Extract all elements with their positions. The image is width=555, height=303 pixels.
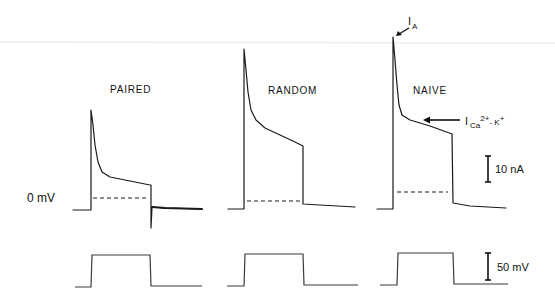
scan-artifact-line xyxy=(0,42,555,43)
voltage-step-paired xyxy=(75,255,202,287)
label-random: RANDOM xyxy=(268,85,317,96)
trace-plot: PAIRED RANDOM NAIVE 0 mV IA xyxy=(0,0,555,303)
label-paired: PAIRED xyxy=(110,84,151,95)
figure: PAIRED RANDOM NAIVE 0 mV IA xyxy=(0,0,555,303)
label-naive: NAIVE xyxy=(413,85,447,96)
voltage-scale-bar: 50 mV xyxy=(485,253,529,280)
current-scale-label: 10 nA xyxy=(495,163,524,175)
voltage-step-random xyxy=(227,254,358,286)
ica-label: ICa2+- K+ xyxy=(465,114,505,130)
paired-tail-thick xyxy=(152,207,202,209)
ia-label: IA xyxy=(408,15,418,31)
voltage-steps xyxy=(75,253,508,287)
holding-potential-label: 0 mV xyxy=(27,191,55,205)
current-scale-bar: 10 nA xyxy=(485,156,524,182)
voltage-scale-label: 50 mV xyxy=(497,261,529,273)
current-traces xyxy=(73,37,506,228)
current-trace-naive xyxy=(377,37,506,209)
current-trace-random xyxy=(228,49,355,209)
ica-arrowhead-icon xyxy=(423,117,430,124)
ia-annotation: IA xyxy=(396,15,418,36)
current-trace-paired xyxy=(73,110,202,228)
ia-arrow-icon xyxy=(399,28,409,34)
